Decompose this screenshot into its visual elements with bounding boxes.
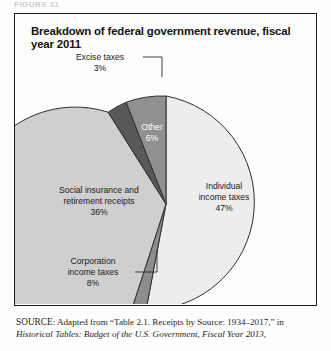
label-individual-income-taxes-line2: income taxes bbox=[199, 192, 250, 202]
source-note-line-2: Historical Tables: Budget of the U.S. Go… bbox=[16, 328, 316, 340]
label-other-name: Other bbox=[141, 122, 163, 132]
label-corporation-income-taxes-line1: Corporation bbox=[71, 256, 116, 266]
leader-line-excise-taxes bbox=[143, 57, 162, 77]
label-social-insurance-pct: 36% bbox=[90, 207, 108, 217]
label-individual-income-taxes-line1: Individual bbox=[206, 181, 242, 191]
source-note: SOURCE: Adapted from “Table 2.1. Receipt… bbox=[16, 316, 316, 340]
pie-chart-svg: Individual income taxes 47% Social insur… bbox=[15, 42, 315, 304]
label-excise-taxes-pct: 3% bbox=[94, 63, 107, 73]
source-note-line-1: SOURCE: Adapted from “Table 2.1. Receipt… bbox=[16, 316, 316, 328]
source-note-prefix: SOURCE bbox=[16, 317, 53, 327]
label-social-insurance-line2: retirement receipts bbox=[63, 196, 134, 206]
figure-frame: Breakdown of federal government revenue,… bbox=[14, 13, 317, 306]
label-social-insurance-line1: Social insurance and bbox=[59, 185, 139, 195]
figure-number-caption: FIGURE 11 bbox=[14, 0, 134, 9]
label-other-pct: 6% bbox=[146, 133, 159, 143]
source-note-line-1-rest: : Adapted from “Table 2.1. Receipts by S… bbox=[53, 317, 284, 327]
label-individual-income-taxes-pct: 47% bbox=[215, 203, 233, 213]
figure-root: FIGURE 11 Breakdown of federal governmen… bbox=[0, 0, 331, 351]
label-excise-taxes-name: Excise taxes bbox=[76, 52, 124, 62]
pie-chart: Individual income taxes 47% Social insur… bbox=[15, 42, 315, 304]
label-corporation-income-taxes-line2: income taxes bbox=[68, 267, 119, 277]
label-corporation-income-taxes-pct: 8% bbox=[87, 278, 100, 288]
